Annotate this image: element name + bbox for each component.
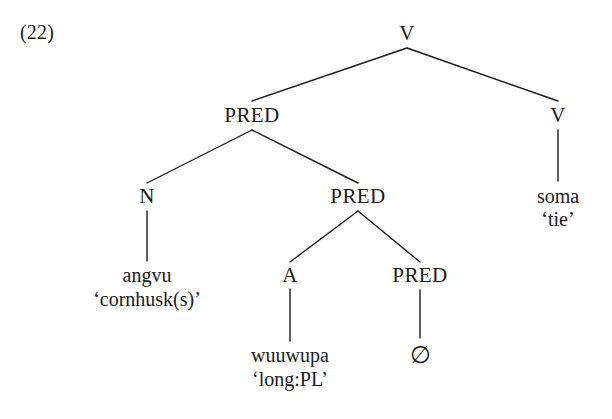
tree-edge-pred_2-to-pred_3 [358, 211, 420, 262]
tree-node-pred-1: PRED [224, 105, 279, 126]
tree-edge-pred_1-to-n_1 [147, 130, 252, 183]
tree-node-v-right: V [550, 105, 566, 126]
tree-node-pred-2: PRED [330, 186, 385, 207]
leaf-word-soma: soma [537, 186, 579, 206]
example-number-label: (22) [20, 22, 54, 42]
tree-node-root-v: V [399, 23, 415, 44]
tree-edge-root_v-to-v_right [407, 48, 558, 101]
tree-edge-pred_2-to-a_1 [290, 211, 358, 262]
tree-edge-root_v-to-pred_1 [252, 48, 407, 101]
leaf-word-angvu: angvu [123, 265, 172, 285]
tree-node-pred-3: PRED [392, 265, 447, 286]
leaf-null-symbol: ∅ [410, 343, 431, 367]
tree-node-a-1: A [282, 265, 298, 286]
leaf-gloss-wuuwupa: ‘long:PL’ [252, 369, 328, 389]
syntax-tree-figure: (22) V PRED V N PRED A PRED angvu ‘cornh… [0, 0, 612, 419]
tree-node-n-1: N [139, 186, 155, 207]
leaf-word-wuuwupa: wuuwupa [251, 345, 329, 365]
tree-edge-pred_1-to-pred_2 [252, 130, 358, 183]
leaf-gloss-soma: ‘tie’ [541, 209, 574, 229]
leaf-gloss-angvu: ‘cornhusk(s)’ [93, 289, 201, 309]
